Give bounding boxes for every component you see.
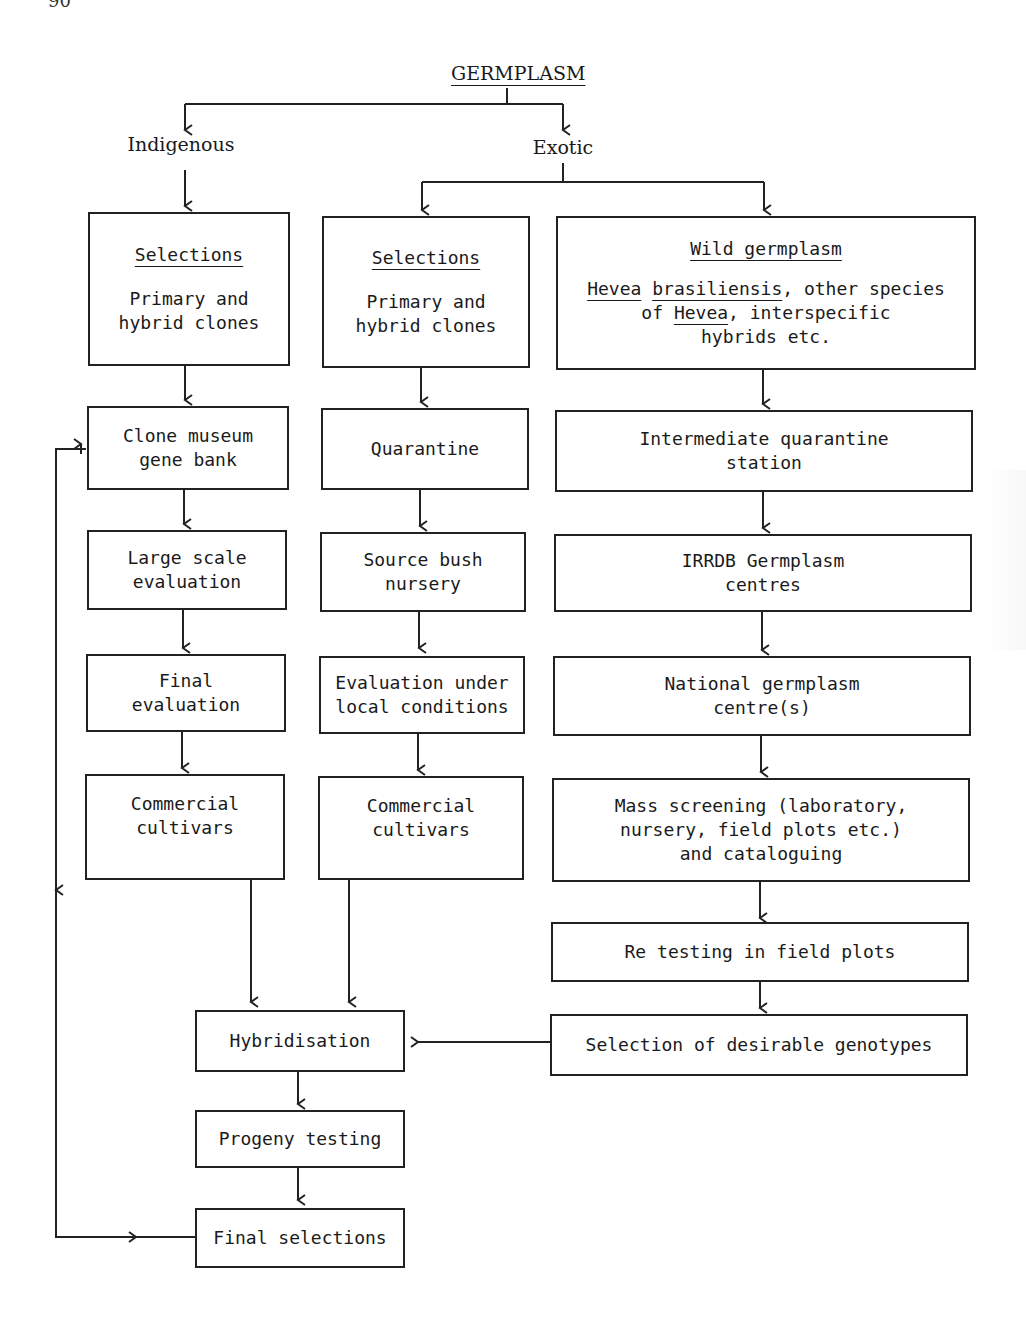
- large-scale-evaluation-box: Large scale evaluation: [87, 530, 287, 610]
- box-text: Commercial: [367, 794, 475, 818]
- box-text: centres: [725, 573, 801, 597]
- box-text: Mass screening (laboratory,: [615, 794, 908, 818]
- genus-term: Hevea: [674, 302, 728, 323]
- box-text: Selection of desirable genotypes: [586, 1033, 933, 1057]
- exotic-commercial-cultivars-box: Commercial cultivars: [318, 776, 524, 880]
- wild-germplasm-box: Wild germplasm Hevea brasiliensis, other…: [556, 216, 976, 370]
- indigenous-commercial-cultivars-box: Commercial cultivars: [85, 774, 285, 880]
- box-text: Hevea brasiliensis, other species: [587, 277, 945, 301]
- box-text-fragment: , other species: [782, 278, 945, 299]
- box-title: Selections: [135, 243, 243, 267]
- irrdb-germplasm-centres-box: IRRDB Germplasm centres: [554, 534, 972, 612]
- box-text: Final: [159, 669, 213, 693]
- box-text: nursery: [385, 572, 461, 596]
- hybridisation-box: Hybridisation: [195, 1010, 405, 1072]
- species-term: brasiliensis: [652, 278, 782, 299]
- box-text: hybrid clones: [119, 311, 260, 335]
- retesting-field-plots-box: Re testing in field plots: [551, 922, 969, 982]
- final-evaluation-box: Final evaluation: [86, 654, 286, 732]
- box-text: evaluation: [133, 570, 241, 594]
- box-text: Final selections: [213, 1226, 386, 1250]
- intermediate-quarantine-box: Intermediate quarantine station: [555, 410, 973, 492]
- box-text: Evaluation under: [335, 671, 508, 695]
- clone-museum-box: Clone museum gene bank: [87, 406, 289, 490]
- evaluation-local-conditions-box: Evaluation under local conditions: [319, 656, 525, 734]
- box-text: cultivars: [372, 818, 470, 842]
- quarantine-box: Quarantine: [321, 408, 529, 490]
- box-text: local conditions: [335, 695, 508, 719]
- box-text: hybrids etc.: [701, 325, 831, 349]
- progeny-testing-box: Progeny testing: [195, 1110, 405, 1168]
- box-text: Hybridisation: [230, 1029, 371, 1053]
- box-text: Primary and: [366, 290, 485, 314]
- germplasm-root: GERMPLASM: [451, 62, 563, 84]
- box-text: Intermediate quarantine: [639, 427, 888, 451]
- box-text: nursery, field plots etc.): [620, 818, 902, 842]
- box-title: Wild germplasm: [690, 237, 842, 261]
- box-text: gene bank: [139, 448, 237, 472]
- final-selections-box: Final selections: [195, 1208, 405, 1268]
- box-title: Selections: [372, 246, 480, 270]
- indigenous-label: Indigenous: [120, 133, 242, 155]
- box-text: Clone museum: [123, 424, 253, 448]
- box-text-fragment: of: [641, 302, 674, 323]
- box-text: Source bush: [363, 548, 482, 572]
- national-germplasm-centre-box: National germplasm centre(s): [553, 656, 971, 736]
- box-text: centre(s): [713, 696, 811, 720]
- box-text: Commercial: [131, 792, 239, 816]
- box-text: cultivars: [136, 816, 234, 840]
- box-text: Quarantine: [371, 437, 479, 461]
- box-text: station: [726, 451, 802, 475]
- exotic-selections-box: Selections Primary and hybrid clones: [322, 216, 530, 368]
- box-text: Large scale: [127, 546, 246, 570]
- box-text: hybrid clones: [356, 314, 497, 338]
- box-text: evaluation: [132, 693, 240, 717]
- box-text: Progeny testing: [219, 1127, 382, 1151]
- exotic-label: Exotic: [520, 136, 606, 158]
- box-text: IRRDB Germplasm: [682, 549, 845, 573]
- box-text: of Hevea, interspecific: [641, 301, 890, 325]
- genus-term: Hevea: [587, 278, 641, 299]
- selection-desirable-genotypes-box: Selection of desirable genotypes: [550, 1014, 968, 1076]
- source-bush-nursery-box: Source bush nursery: [320, 532, 526, 612]
- box-text: Re testing in field plots: [625, 940, 896, 964]
- box-text: National germplasm: [664, 672, 859, 696]
- box-text: Primary and: [129, 287, 248, 311]
- mass-screening-box: Mass screening (laboratory, nursery, fie…: [552, 778, 970, 882]
- box-text: and cataloguing: [680, 842, 843, 866]
- page-edge-bleed: [986, 470, 1026, 650]
- indigenous-selections-box: Selections Primary and hybrid clones: [88, 212, 290, 366]
- box-text-fragment: , interspecific: [728, 302, 891, 323]
